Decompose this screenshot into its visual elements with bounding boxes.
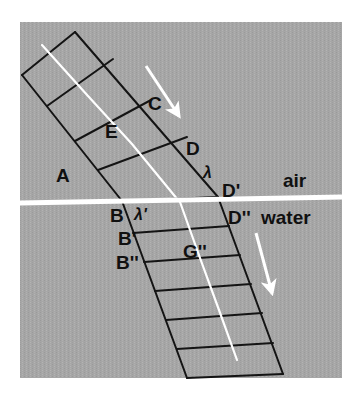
- label-B: B: [110, 205, 124, 226]
- refraction-figure: A E C D λ D' B λ' B' B'' D'' G'' air wat…: [0, 0, 356, 400]
- label-E: E: [105, 121, 118, 142]
- label-D-double-prime: D'': [228, 207, 251, 228]
- air-label: air: [283, 170, 307, 191]
- figure-canvas: A E C D λ D' B λ' B' B'' D'' G'' air wat…: [0, 0, 356, 400]
- water-label: water: [260, 207, 311, 228]
- label-C: C: [148, 93, 162, 114]
- label-A: A: [56, 165, 70, 186]
- label-lambda: λ: [202, 164, 212, 181]
- label-D: D: [186, 138, 200, 159]
- label-B-prime: B': [118, 228, 136, 249]
- label-G-double-prime: G'': [183, 241, 207, 262]
- label-lambda-prime: λ': [133, 206, 148, 223]
- label-D-prime: D': [222, 180, 240, 201]
- label-B-double-prime: B'': [116, 252, 139, 273]
